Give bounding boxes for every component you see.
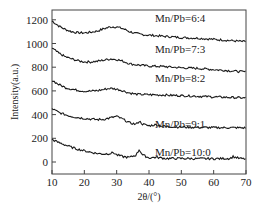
- y-tick-label: 0: [43, 156, 49, 168]
- series-line: [52, 139, 246, 160]
- xrd-chart: 10203040506070 020040060080010001200 Mn/…: [0, 0, 263, 209]
- series-label: Mn/Pb=7:3: [155, 43, 206, 55]
- x-tick-label: 30: [111, 176, 123, 188]
- series-label: Mn/Pb=6:4: [155, 12, 206, 24]
- series-lines: [52, 21, 246, 160]
- series-line: [52, 21, 246, 42]
- series-line: [52, 81, 246, 98]
- series-line: [52, 109, 246, 129]
- x-tick-label: 10: [47, 176, 59, 188]
- y-tick-label: 1200: [26, 14, 49, 26]
- series-label: Mn/Pb=8:2: [155, 72, 205, 84]
- x-tick-label: 40: [144, 176, 156, 188]
- y-tick-label: 400: [32, 109, 49, 121]
- x-tick-label: 50: [176, 176, 188, 188]
- x-axis-ticks: 10203040506070: [47, 170, 253, 188]
- series-labels: Mn/Pb=6:4Mn/Pb=7:3Mn/Pb=8:2Mn/Pb=9:1Mn/P…: [155, 12, 211, 158]
- y-axis-title: Intensity(a.u.): [9, 64, 21, 120]
- series-label: Mn/Pb=10:0: [155, 146, 211, 158]
- y-tick-label: 1000: [26, 38, 49, 50]
- y-tick-label: 800: [32, 61, 49, 73]
- series-label: Mn/Pb=9:1: [155, 118, 205, 130]
- x-axis-title: 2θ/(°): [137, 191, 160, 203]
- y-tick-label: 200: [32, 132, 49, 144]
- y-tick-label: 600: [32, 85, 49, 97]
- series-line: [52, 48, 246, 72]
- x-tick-label: 20: [79, 176, 91, 188]
- x-tick-label: 70: [241, 176, 253, 188]
- x-tick-label: 60: [208, 176, 220, 188]
